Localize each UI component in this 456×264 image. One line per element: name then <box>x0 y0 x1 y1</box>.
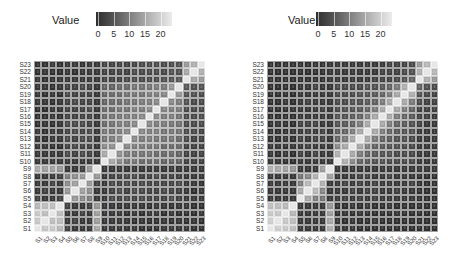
heatmap-cell: 4 <box>364 83 371 90</box>
heatmap-cell: 1 <box>146 165 153 172</box>
heatmap-cell: 2 <box>108 187 115 194</box>
y-tick-label: S14 <box>240 128 264 135</box>
heatmap-cell: 18 <box>282 217 289 224</box>
heatmap-cell: 6 <box>393 120 400 127</box>
heatmap-cell: 1 <box>108 210 115 217</box>
heatmap-cell: 0 <box>282 68 289 75</box>
y-tick-label: S6 <box>240 187 264 194</box>
heatmap-cell: 5 <box>379 83 386 90</box>
heatmap-cell: 1 <box>93 68 100 75</box>
heatmap-cell: 9 <box>86 195 93 202</box>
heatmap-cell: 8 <box>108 113 115 120</box>
heatmap-cell: 1 <box>341 225 348 232</box>
heatmap-cell: 2 <box>297 135 304 142</box>
heatmap-cell: 6 <box>401 113 408 120</box>
heatmap-cell: 10 <box>153 98 160 105</box>
heatmap-cell: 8 <box>131 158 138 165</box>
heatmap-cell: 14 <box>304 195 311 202</box>
heatmap-cell: 3 <box>334 98 341 105</box>
heatmap-cell: 2 <box>146 187 153 194</box>
heatmap-cell: 2 <box>79 210 86 217</box>
heatmap-cell: 1 <box>267 180 274 187</box>
heatmap-cell: 7 <box>101 113 108 120</box>
heatmap-cell: 2 <box>138 173 145 180</box>
heatmap-cell: 9 <box>312 195 319 202</box>
heatmap-cell: 14 <box>401 98 408 105</box>
heatmap-cell: 2 <box>108 76 115 83</box>
colorbar-tick-label: 20 <box>376 29 386 39</box>
heatmap-cell: 1 <box>289 128 296 135</box>
heatmap-cell: 1 <box>319 202 326 209</box>
heatmap-cell: 10 <box>131 135 138 142</box>
heatmap-cell: 1 <box>326 113 333 120</box>
heatmap-cell: 1 <box>175 217 182 224</box>
colorbar-tick-label: 5 <box>331 29 336 39</box>
heatmap-cell: 2 <box>123 68 130 75</box>
heatmap-cell: 2 <box>160 180 167 187</box>
heatmap-cell: 1 <box>304 83 311 90</box>
heatmap-cell: 3 <box>183 106 190 113</box>
heatmap-cell: 2 <box>416 113 423 120</box>
heatmap-cell: 9 <box>146 91 153 98</box>
heatmap-cell: 18 <box>49 225 56 232</box>
heatmap-cell: 1 <box>71 202 78 209</box>
heatmap-cell: 9 <box>108 135 115 142</box>
heatmap-cell: 1 <box>138 202 145 209</box>
heatmap-cell: 9 <box>393 113 400 120</box>
heatmap-cell: 1 <box>356 210 363 217</box>
heatmap-cell: 0 <box>282 120 289 127</box>
heatmap-cell: 22 <box>190 68 197 75</box>
heatmap-cell: 0 <box>183 210 190 217</box>
heatmap-cell: 8 <box>131 150 138 157</box>
heatmap-cell: 1 <box>289 195 296 202</box>
heatmap-cell: 0 <box>341 217 348 224</box>
heatmap-cell: 1 <box>393 180 400 187</box>
heatmap-cell: 3 <box>71 120 78 127</box>
heatmap-cell: 22 <box>416 76 423 83</box>
heatmap-cell: 10 <box>319 187 326 194</box>
heatmap-cell: 8 <box>116 113 123 120</box>
heatmap-cell: 3 <box>71 143 78 150</box>
heatmap-cell: 7 <box>153 158 160 165</box>
heatmap-cell: 1 <box>267 143 274 150</box>
heatmap-cell: 13 <box>326 210 333 217</box>
heatmap-cell: 9 <box>64 173 71 180</box>
heatmap-cell: 0 <box>319 61 326 68</box>
heatmap-cell: 0 <box>267 106 274 113</box>
heatmap-cell: 12 <box>198 76 205 83</box>
heatmap-cell: 14 <box>356 128 363 135</box>
heatmap-cell: 8 <box>123 98 130 105</box>
heatmap-cell: 1 <box>101 225 108 232</box>
heatmap-cell: 1 <box>267 173 274 180</box>
heatmap-cell: 10 <box>138 128 145 135</box>
heatmap-cell: 2 <box>71 217 78 224</box>
heatmap-cell: 1 <box>198 165 205 172</box>
heatmap-cell: 1 <box>393 210 400 217</box>
heatmap-cell: 18 <box>41 225 48 232</box>
heatmap-cell: 0 <box>282 76 289 83</box>
heatmap-cell: 0 <box>289 98 296 105</box>
heatmap-cell: 1 <box>326 83 333 90</box>
heatmap-cell: 22 <box>349 143 356 150</box>
heatmap-cell: 2 <box>183 143 190 150</box>
heatmap-cell: 8 <box>297 173 304 180</box>
heatmap-cell: 12 <box>183 61 190 68</box>
heatmap-cell: 1 <box>416 143 423 150</box>
heatmap-cell: 0 <box>153 225 160 232</box>
heatmap-cell: 3 <box>108 195 115 202</box>
heatmap-cell: 1 <box>289 173 296 180</box>
heatmap-cell: 12 <box>71 195 78 202</box>
heatmap-cell: 1 <box>319 83 326 90</box>
heatmap-cell: 1 <box>274 143 281 150</box>
heatmap-cell: 0 <box>416 225 423 232</box>
heatmap-cell: 14 <box>371 113 378 120</box>
heatmap-cell: 1 <box>71 76 78 83</box>
heatmap-cell: 0 <box>289 68 296 75</box>
heatmap-cell: 5 <box>175 76 182 83</box>
heatmap-cell: 3 <box>349 83 356 90</box>
heatmap-cell: 1 <box>334 187 341 194</box>
heatmap-cell: 22 <box>198 61 205 68</box>
heatmap-cell: 2 <box>116 173 123 180</box>
heatmap-cell: 12 <box>326 202 333 209</box>
heatmap-cell: 0 <box>146 225 153 232</box>
